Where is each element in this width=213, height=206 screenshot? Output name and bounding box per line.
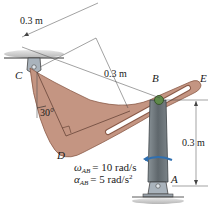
svg-text:αAB= 5 rad/s2: αAB= 5 rad/s2 (74, 173, 133, 187)
point-D-label: D (56, 149, 65, 161)
pin-B (155, 96, 164, 105)
ceiling-support (4, 50, 64, 73)
mechanism-diagram: 30° (0, 0, 213, 206)
dim-top-label: 0.3 m (20, 15, 43, 26)
point-B-label: B (152, 72, 159, 84)
given-values: ωAB= 10 rad/s αAB= 5 rad/s2 (74, 161, 136, 187)
point-E-label: E (199, 72, 207, 84)
point-A-label: A (170, 173, 178, 185)
dim-mid-label: 0.3 m (104, 68, 127, 79)
omega-value: = 10 rad/s (92, 161, 136, 173)
point-C-label: C (15, 69, 23, 81)
ground-support-A (132, 182, 184, 204)
alpha-value: = 5 rad/s (90, 173, 129, 185)
dim-vertical-label: 0.3 m (182, 137, 205, 148)
angle-label: 30° (40, 107, 54, 118)
